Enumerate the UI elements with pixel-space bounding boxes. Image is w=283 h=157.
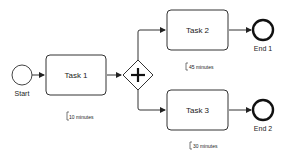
task-3[interactable]: Task 3 (167, 90, 228, 130)
task-2-annotation[interactable]: 45 minutes (186, 63, 214, 70)
parallel-gateway[interactable] (123, 60, 153, 90)
edge-gateway-task3[interactable] (138, 90, 165, 110)
task-1-annotation-text: 10 minutes (69, 114, 94, 120)
task-3-label: Task 3 (186, 106, 210, 115)
task-3-annotation[interactable]: 30 minutes (190, 142, 218, 149)
edge-gateway-task2[interactable] (138, 30, 165, 60)
task-3-annotation-text: 30 minutes (193, 143, 218, 149)
start-event[interactable]: Start (12, 65, 32, 97)
task-1-annotation[interactable]: 10 minutes (67, 112, 94, 120)
bpmn-diagram: Start Task 1 10 minutes Task 2 45 minute… (0, 0, 283, 157)
task-2[interactable]: Task 2 (167, 10, 228, 50)
end-event-1[interactable]: End 1 (253, 20, 273, 52)
end-event-2[interactable]: End 2 (253, 100, 273, 132)
end-1-label: End 1 (254, 45, 272, 52)
task-2-annotation-text: 45 minutes (189, 64, 214, 70)
task-1-label: Task 1 (64, 71, 88, 80)
end-2-label: End 2 (254, 125, 272, 132)
task-2-label: Task 2 (186, 26, 210, 35)
task-1[interactable]: Task 1 (46, 55, 106, 95)
start-label: Start (15, 90, 30, 97)
